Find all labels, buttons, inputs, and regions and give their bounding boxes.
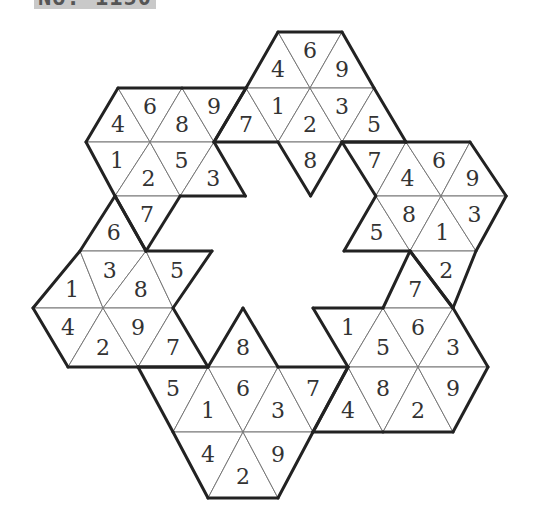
- cell-number: 4: [111, 112, 125, 137]
- cell-number: 5: [367, 112, 381, 137]
- cell-number: 2: [439, 258, 453, 283]
- cell-number: 7: [306, 376, 320, 401]
- cell-number: 7: [368, 148, 382, 173]
- cell-number: 7: [166, 335, 180, 360]
- cell-number: 9: [335, 57, 349, 82]
- cell-number: 8: [402, 202, 416, 227]
- cell-number: 9: [465, 166, 479, 191]
- cell-number: 6: [411, 315, 425, 340]
- cell-number: 8: [236, 335, 250, 360]
- cell-number: 6: [236, 376, 250, 401]
- cell-number: 2: [141, 166, 155, 191]
- cell-number: 4: [61, 315, 75, 340]
- cell-number: 4: [341, 398, 355, 423]
- cell-number: 6: [107, 220, 121, 245]
- puzzle-cells: 4697123584689125376138542978516374297156…: [33, 32, 506, 498]
- cell-number: 8: [303, 148, 317, 173]
- shape-left: 613854297: [33, 196, 212, 367]
- cell-number: 8: [175, 112, 189, 137]
- cell-number: 7: [140, 202, 154, 227]
- cell-number: 1: [271, 94, 285, 119]
- cell-number: 3: [206, 166, 220, 191]
- cell-number: 5: [170, 258, 184, 283]
- cell-number: 2: [411, 398, 425, 423]
- cell-number: 4: [401, 166, 415, 191]
- cell-number: 9: [446, 376, 460, 401]
- cell-number: 4: [201, 442, 215, 467]
- cell-number: 2: [303, 112, 317, 137]
- cell-number: 4: [271, 57, 285, 82]
- cell-number: 1: [341, 315, 355, 340]
- cell-number: 6: [303, 38, 317, 63]
- cell-number: 5: [166, 376, 180, 401]
- cell-number: 8: [134, 277, 148, 302]
- cell-number: 3: [103, 258, 117, 283]
- cell-number: 9: [207, 94, 221, 119]
- cell-number: 3: [467, 202, 481, 227]
- cell-number: 1: [435, 220, 449, 245]
- cell-number: 9: [131, 315, 145, 340]
- cell-number: 3: [271, 398, 285, 423]
- cell-number: 2: [236, 464, 250, 489]
- cell-number: 8: [376, 376, 390, 401]
- cell-number: 1: [201, 398, 215, 423]
- cell-number: 6: [143, 94, 157, 119]
- cell-number: 2: [96, 335, 110, 360]
- cell-number: 6: [432, 148, 446, 173]
- cell-number: 7: [239, 112, 253, 137]
- cell-number: 9: [271, 442, 285, 467]
- cell-number: 7: [408, 277, 422, 302]
- cell-number: 5: [370, 220, 384, 245]
- cell-number: 1: [65, 277, 79, 302]
- cell-number: 5: [174, 148, 188, 173]
- cell-number: 3: [335, 94, 349, 119]
- cell-number: 5: [376, 335, 390, 360]
- cell-number: 1: [110, 148, 124, 173]
- triangle-puzzle-board: 4697123584689125376138542978516374297156…: [0, 0, 534, 520]
- cell-number: 3: [446, 335, 460, 360]
